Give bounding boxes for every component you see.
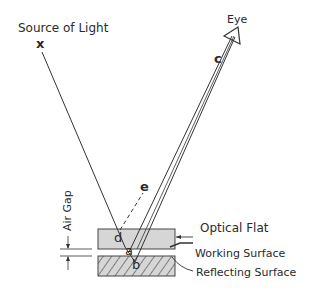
point-a-label: a: [125, 243, 133, 258]
incident-ray: [42, 52, 125, 247]
eye-icon: [224, 27, 240, 44]
dashed-ray-e: [120, 193, 143, 230]
optical-flat: [98, 229, 175, 249]
arrow-up-icon: [66, 256, 70, 261]
source-marker: x: [36, 36, 45, 51]
optical-flat-label: Optical Flat: [200, 221, 269, 235]
source-label: Source of Light: [18, 21, 109, 35]
optical-flat-diagram: Source of Light x Eye c e d a b Air Gap …: [0, 0, 310, 295]
working-surface-label: Working Surface: [195, 247, 285, 260]
arrow-down-icon: [66, 244, 70, 249]
point-b-label: b: [132, 257, 140, 272]
reflecting-surface-label: Reflecting Surface: [196, 266, 297, 279]
reflected-ray-a: [129, 36, 232, 252]
air-gap-label: Air Gap: [61, 190, 74, 231]
arrow-left-icon: [176, 235, 181, 239]
point-d-label: d: [114, 230, 122, 245]
reflected-ray-b2: [137, 36, 234, 249]
eye-label: Eye: [227, 13, 247, 26]
point-c-label: c: [214, 51, 222, 66]
point-e-label: e: [140, 179, 149, 194]
